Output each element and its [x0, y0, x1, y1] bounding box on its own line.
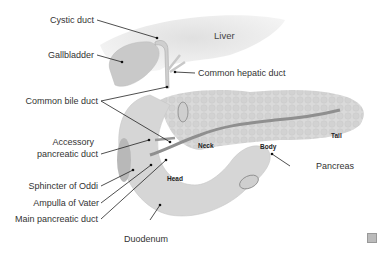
pancreas-label: Pancreas: [316, 161, 354, 171]
accessory-pancreatic-duct-label-line2: pancreatic duct: [37, 149, 98, 159]
head-label: Head: [167, 175, 183, 182]
ampulla-of-vater-label: Ampulla of Vater: [33, 198, 99, 208]
tail-label: Tail: [331, 132, 342, 139]
neck-label: Neck: [198, 142, 214, 149]
body-label: Body: [260, 143, 276, 150]
main-pancreatic-duct-label: Main pancreatic duct: [15, 214, 98, 224]
liver-label: Liver: [214, 30, 235, 41]
cystic-duct-label: Cystic duct: [50, 15, 94, 25]
duodenum-label: Duodenum: [124, 234, 168, 244]
pancreas-anatomy-diagram: Liver Neck Body Tail Head Cystic duct Ga…: [0, 0, 384, 259]
common-hepatic-duct-label: Common hepatic duct: [198, 68, 286, 78]
accessory-pancreatic-duct-label-line1: Accessory: [52, 137, 94, 147]
common-bile-duct-label: Common bile duct: [25, 96, 98, 106]
gallbladder-label: Gallbladder: [48, 50, 94, 60]
sphincter-of-oddi-label: Sphincter of Oddi: [28, 181, 98, 191]
expand-icon[interactable]: [367, 233, 377, 243]
